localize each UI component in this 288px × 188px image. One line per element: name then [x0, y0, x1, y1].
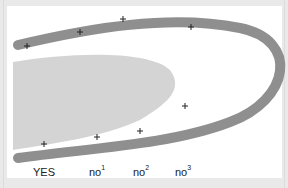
plus-marker-icon — [182, 103, 188, 109]
light-gray-region — [13, 55, 175, 150]
label-no-1: no1 — [89, 166, 105, 178]
label-yes: YES — [33, 166, 55, 178]
diagram-canvas — [0, 0, 288, 188]
label-no-2: no2 — [133, 166, 149, 178]
plus-marker-icon — [137, 128, 143, 134]
label-no-3: no3 — [175, 166, 191, 178]
category-labels: YES no1 no2 no3 — [0, 166, 288, 182]
